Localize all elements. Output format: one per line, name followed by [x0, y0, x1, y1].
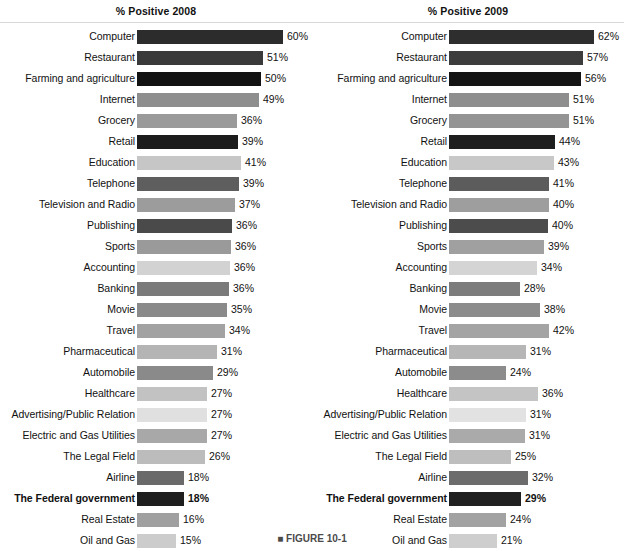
- bar: [449, 72, 581, 86]
- category-label: Travel: [312, 325, 449, 336]
- chart-row: Farming and agriculture50%: [0, 68, 312, 89]
- bar: [137, 303, 227, 317]
- bar: [449, 492, 521, 506]
- bar-value-label: 50%: [261, 73, 286, 84]
- bar-value-label: 26%: [205, 451, 230, 462]
- chart-row: Movie35%: [0, 299, 312, 320]
- bar-area: 25%: [449, 446, 624, 467]
- chart-row: Retail44%: [312, 131, 624, 152]
- category-label: Internet: [312, 94, 449, 105]
- chart-row: Pharmaceutical31%: [312, 341, 624, 362]
- category-label: Real Estate: [0, 514, 137, 525]
- bar-area: 51%: [449, 110, 624, 131]
- bar-value-label: 38%: [540, 304, 565, 315]
- bar-area: 42%: [449, 320, 624, 341]
- bar-area: 36%: [137, 278, 312, 299]
- bar: [449, 261, 537, 275]
- category-label: Telephone: [312, 178, 449, 189]
- bar-value-label: 44%: [555, 136, 580, 147]
- category-label: Real Estate: [312, 514, 449, 525]
- chart-row: Grocery36%: [0, 110, 312, 131]
- category-label: Television and Radio: [312, 199, 449, 210]
- bar-area: 27%: [137, 425, 312, 446]
- bar-area: 38%: [449, 299, 624, 320]
- bar: [449, 114, 569, 128]
- category-label: Airline: [312, 472, 449, 483]
- bar-area: 32%: [449, 467, 624, 488]
- bar-value-label: 18%: [184, 472, 209, 483]
- bar-area: 51%: [449, 89, 624, 110]
- bar: [449, 345, 526, 359]
- bar-value-label: 27%: [207, 430, 232, 441]
- category-label: Banking: [312, 283, 449, 294]
- bar: [137, 177, 239, 191]
- bar: [137, 345, 217, 359]
- bar-value-label: 27%: [207, 409, 232, 420]
- category-label: Education: [0, 157, 137, 168]
- category-label: Grocery: [0, 115, 137, 126]
- bar-value-label: 39%: [239, 178, 264, 189]
- bar: [137, 198, 235, 212]
- bar-area: 50%: [137, 68, 312, 89]
- bar: [137, 429, 207, 443]
- category-label: Travel: [0, 325, 137, 336]
- bar: [449, 135, 555, 149]
- bar: [449, 219, 548, 233]
- category-label: Pharmaceutical: [312, 346, 449, 357]
- bar: [449, 240, 544, 254]
- bar: [449, 387, 538, 401]
- bar: [449, 51, 583, 65]
- bar-value-label: 42%: [549, 325, 574, 336]
- chart-row: Publishing40%: [312, 215, 624, 236]
- category-label: Television and Radio: [0, 199, 137, 210]
- category-label: Grocery: [312, 115, 449, 126]
- bar: [137, 72, 261, 86]
- bar: [137, 51, 263, 65]
- bar-area: 39%: [449, 236, 624, 257]
- bar-value-label: 27%: [207, 388, 232, 399]
- bar: [449, 513, 506, 527]
- bar: [137, 219, 232, 233]
- chart-row: Publishing36%: [0, 215, 312, 236]
- chart-row: Internet49%: [0, 89, 312, 110]
- category-label: Telephone: [0, 178, 137, 189]
- category-label: The Federal government: [312, 493, 449, 504]
- category-label: Movie: [312, 304, 449, 315]
- chart-row: Real Estate24%: [312, 509, 624, 530]
- chart-row: Banking36%: [0, 278, 312, 299]
- category-label: Farming and agriculture: [0, 73, 137, 84]
- bar-area: 39%: [137, 173, 312, 194]
- chart-row: Computer62%: [312, 26, 624, 47]
- category-label: Banking: [0, 283, 137, 294]
- bar-value-label: 40%: [549, 199, 574, 210]
- chart-row: Automobile29%: [0, 362, 312, 383]
- category-label: Advertising/Public Relation: [0, 409, 137, 420]
- bar-area: 40%: [449, 194, 624, 215]
- chart-row: Electric and Gas Utilities31%: [312, 425, 624, 446]
- bar-area: 34%: [449, 257, 624, 278]
- chart-row: Restaurant57%: [312, 47, 624, 68]
- bar: [137, 156, 241, 170]
- category-label: Advertising/Public Relation: [312, 409, 449, 420]
- bar-area: 36%: [137, 110, 312, 131]
- chart-row: Airline18%: [0, 467, 312, 488]
- category-label: Sports: [0, 241, 137, 252]
- bar-area: 51%: [137, 47, 312, 68]
- category-label: Healthcare: [0, 388, 137, 399]
- chart-row: Retail39%: [0, 131, 312, 152]
- bar: [137, 324, 225, 338]
- chart-row: The Federal government29%: [312, 488, 624, 509]
- figure-caption: ■ FIGURE 10-1: [0, 533, 624, 544]
- bar-area: 24%: [449, 362, 624, 383]
- bar-value-label: 31%: [525, 430, 550, 441]
- chart-row: The Legal Field26%: [0, 446, 312, 467]
- category-label: Automobile: [312, 367, 449, 378]
- bar-area: 49%: [137, 89, 312, 110]
- chart-row: Education41%: [0, 152, 312, 173]
- chart-row: Accounting36%: [0, 257, 312, 278]
- chart-row: Television and Radio40%: [312, 194, 624, 215]
- category-label: Automobile: [0, 367, 137, 378]
- bar: [137, 261, 230, 275]
- bar: [137, 114, 237, 128]
- bar-value-label: 31%: [217, 346, 242, 357]
